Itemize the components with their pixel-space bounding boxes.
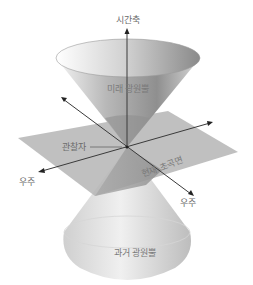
space-axis-left-arrow-icon	[38, 168, 45, 173]
space-right-label: 우주	[180, 198, 196, 208]
time-axis-label: 시간축	[116, 15, 140, 25]
observer-label: 관찰자	[62, 142, 87, 152]
space-left-label: 우주	[19, 177, 35, 187]
space-axis-diagonal-arrow-down-icon	[188, 190, 194, 196]
future-light-cone-label: 미래 광원뿔	[107, 83, 150, 94]
past-light-cone-label: 과거 광원뿔	[114, 247, 157, 258]
time-axis-arrow-icon	[125, 28, 130, 34]
light-cone-diagram: 시간축 미래 광원뿔 관찰자 현재 초곡면 우주 우주 과거 광원뿔	[0, 0, 253, 285]
space-axis-right-arrow-icon	[207, 121, 213, 126]
observer-point	[125, 145, 128, 148]
